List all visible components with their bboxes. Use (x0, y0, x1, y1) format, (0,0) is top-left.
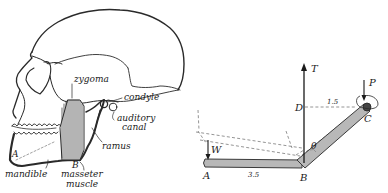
label-theta: θ (311, 141, 317, 151)
label-ramus: ramus (102, 141, 131, 151)
lever-arm-bc (297, 104, 370, 168)
mastoid-line (94, 110, 100, 134)
figure-canvas: zygoma condyle auditory canal ramus mand… (0, 0, 388, 193)
tension-arrow-head (301, 63, 307, 71)
label-condyle: condyle (124, 92, 159, 102)
label-skull-a: A (11, 149, 19, 159)
label-length-ab: 3.5 (248, 171, 260, 179)
leader-mandible (46, 160, 48, 168)
teeth-gumline-upper (12, 126, 56, 129)
skull-illustration (10, 10, 184, 171)
eye-socket (26, 62, 51, 94)
label-lever-b: B (299, 172, 307, 183)
leader-auditory (113, 112, 115, 120)
label-skull-b: B (71, 160, 79, 170)
temporal-line (55, 55, 128, 69)
lever-diagram (196, 63, 378, 168)
label-w: W (211, 144, 222, 155)
label-zygoma: zygoma (73, 74, 109, 84)
label-t: T (311, 63, 319, 74)
fossa-line (128, 68, 180, 90)
lever-arm-ab (204, 159, 303, 168)
masseter-muscle (60, 100, 84, 160)
label-masseter: masseter (61, 169, 103, 179)
label-muscle: muscle (66, 179, 98, 189)
label-canal: canal (122, 122, 147, 132)
label-lever-c: C (364, 113, 372, 124)
label-p: P (368, 77, 376, 88)
upper-teeth (12, 124, 61, 126)
label-mandible: mandible (5, 169, 47, 179)
auditory-canal (109, 103, 117, 111)
lever-end-c (363, 103, 371, 111)
label-lever-d: D (294, 102, 303, 113)
label-length-dc: 1.5 (327, 98, 339, 106)
label-lever-a: A (202, 170, 210, 181)
lever-line-a-condyle (16, 142, 54, 160)
lower-teeth (14, 132, 58, 134)
maxilla-line (18, 90, 25, 124)
